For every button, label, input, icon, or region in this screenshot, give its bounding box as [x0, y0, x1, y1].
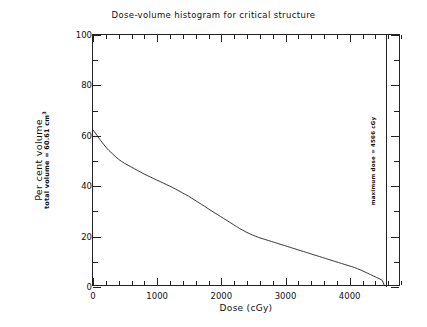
x-axis-tick	[273, 281, 274, 285]
x-axis-tick	[234, 35, 235, 39]
x-axis-title: Dose (cGy)	[92, 303, 400, 313]
x-axis-tick	[375, 35, 376, 39]
y-axis-tick	[394, 161, 399, 162]
y-axis-tick	[93, 186, 101, 187]
x-axis-tick	[311, 35, 312, 39]
y-axis-tick	[93, 35, 101, 36]
x-axis-tick	[337, 35, 338, 39]
x-axis-tick	[196, 281, 197, 285]
y-axis-tick	[93, 211, 98, 212]
y-axis-tick	[394, 211, 399, 212]
y-axis-tick	[394, 60, 399, 61]
maximum-dose-line	[386, 35, 387, 287]
x-axis-tick	[221, 278, 222, 285]
x-axis-tick	[324, 35, 325, 39]
x-axis-tick	[324, 281, 325, 285]
x-axis-tick	[183, 281, 184, 285]
x-axis-tick	[298, 281, 299, 285]
x-axis-tick	[93, 35, 94, 42]
x-axis-tick	[106, 281, 107, 285]
x-axis-tick	[234, 281, 235, 285]
dvh-curve-svg	[93, 35, 399, 285]
x-axis-tick	[132, 281, 133, 285]
y-axis-tick-label: 40	[81, 181, 92, 191]
x-axis-tick	[401, 35, 402, 39]
x-axis-tick	[183, 35, 184, 39]
x-axis-tick	[260, 281, 261, 285]
x-axis-tick	[375, 281, 376, 285]
y-axis-tick	[93, 85, 101, 86]
x-axis-tick	[119, 281, 120, 285]
x-axis-tick	[401, 281, 402, 285]
dvh-figure: Dose-volume histogram for critical struc…	[0, 0, 427, 327]
x-axis-tick	[157, 278, 158, 285]
x-axis-tick	[119, 35, 120, 39]
y-axis-tick	[93, 136, 101, 137]
y-axis-tick	[391, 136, 399, 137]
y-axis-subtitle: total volume = 60.61 cm3	[41, 100, 51, 220]
y-axis-tick-label: 60	[81, 131, 92, 141]
x-axis-tick	[273, 35, 274, 39]
y-axis-tick	[391, 35, 399, 36]
dvh-curve-layer	[93, 35, 399, 285]
y-axis-tick	[93, 111, 98, 112]
x-axis-tick	[311, 281, 312, 285]
x-axis-tick	[350, 278, 351, 285]
x-axis-tick	[363, 281, 364, 285]
y-axis-tick	[93, 237, 101, 238]
y-axis-tick	[394, 111, 399, 112]
x-axis-tick	[144, 35, 145, 39]
total-volume-text: total volume = 60.61 cm	[43, 115, 51, 209]
chart-title: Dose-volume histogram for critical struc…	[0, 10, 427, 20]
maximum-dose-label: maximum dose = 4566 cGy	[370, 105, 376, 217]
x-axis-tick	[247, 35, 248, 39]
x-axis-tick	[106, 35, 107, 39]
y-axis-tick	[93, 60, 98, 61]
x-axis-tick-label: 3000	[275, 291, 297, 301]
x-axis-tick	[144, 281, 145, 285]
x-axis-tick	[363, 35, 364, 39]
plot-area: maximum dose = 4566 cGy 0204060801000100…	[92, 34, 400, 286]
x-axis-tick	[221, 35, 222, 42]
x-axis-tick	[350, 35, 351, 42]
x-axis-tick	[286, 278, 287, 285]
y-axis-title-group: Per cent volume total volume = 60.61 cm3	[16, 34, 52, 286]
x-axis-tick	[298, 35, 299, 39]
y-axis-tick-label: 20	[81, 232, 92, 242]
x-axis-tick-label: 1000	[146, 291, 168, 301]
y-axis-tick-label: 100	[76, 30, 92, 40]
y-axis-tick	[93, 262, 98, 263]
x-axis-tick	[260, 35, 261, 39]
y-axis-tick	[93, 287, 101, 288]
x-axis-tick	[132, 35, 133, 39]
x-axis-tick	[388, 35, 389, 39]
y-axis-tick-label: 80	[81, 80, 92, 90]
y-axis-tick	[391, 287, 399, 288]
x-axis-tick	[157, 35, 158, 42]
x-axis-tick	[247, 281, 248, 285]
total-volume-exponent: 3	[41, 111, 47, 115]
y-axis-tick	[93, 161, 98, 162]
x-axis-tick	[209, 35, 210, 39]
x-axis-tick	[170, 281, 171, 285]
x-axis-tick-label: 4000	[339, 291, 361, 301]
y-axis-tick	[391, 237, 399, 238]
x-axis-tick	[286, 35, 287, 42]
x-axis-tick	[196, 35, 197, 39]
x-axis-tick	[170, 35, 171, 39]
y-axis-tick	[391, 186, 399, 187]
x-axis-tick-label: 2000	[211, 291, 233, 301]
dvh-curve	[93, 130, 384, 285]
x-axis-tick	[93, 278, 94, 285]
y-axis-tick	[391, 85, 399, 86]
y-axis-tick	[394, 262, 399, 263]
x-axis-tick-label: 0	[90, 291, 95, 301]
x-axis-tick	[388, 281, 389, 285]
x-axis-tick	[337, 281, 338, 285]
x-axis-tick	[209, 281, 210, 285]
